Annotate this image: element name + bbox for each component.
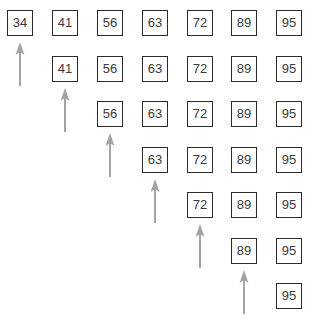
array-cell: 95: [276, 56, 302, 82]
array-cell: 41: [52, 56, 78, 82]
array-sweep-diagram: 3441566372899541566372899556637289956372…: [0, 0, 314, 320]
array-cell: 56: [97, 56, 123, 82]
array-cell: 95: [276, 192, 302, 218]
array-cell: 72: [187, 10, 213, 36]
array-cell: 34: [7, 10, 33, 36]
array-cell: 89: [231, 101, 257, 127]
up-arrow-icon: [14, 42, 26, 86]
array-cell: 72: [187, 192, 213, 218]
up-arrow-icon: [149, 179, 161, 223]
array-cell: 95: [276, 147, 302, 173]
array-cell: 89: [231, 192, 257, 218]
array-cell: 63: [142, 101, 168, 127]
array-cell: 95: [276, 10, 302, 36]
up-arrow-icon: [194, 224, 206, 268]
array-cell: 89: [231, 56, 257, 82]
array-cell: 72: [187, 101, 213, 127]
array-cell: 63: [142, 10, 168, 36]
array-cell: 89: [231, 238, 257, 264]
array-cell: 89: [231, 147, 257, 173]
array-cell: 56: [97, 101, 123, 127]
array-cell: 95: [276, 238, 302, 264]
array-cell: 95: [276, 101, 302, 127]
array-cell: 63: [142, 147, 168, 173]
up-arrow-icon: [104, 133, 116, 177]
array-cell: 95: [276, 283, 302, 309]
array-cell: 41: [52, 10, 78, 36]
array-cell: 56: [97, 10, 123, 36]
up-arrow-icon: [238, 270, 250, 314]
array-cell: 63: [142, 56, 168, 82]
array-cell: 89: [231, 10, 257, 36]
up-arrow-icon: [59, 88, 71, 132]
array-cell: 72: [187, 56, 213, 82]
array-cell: 72: [187, 147, 213, 173]
